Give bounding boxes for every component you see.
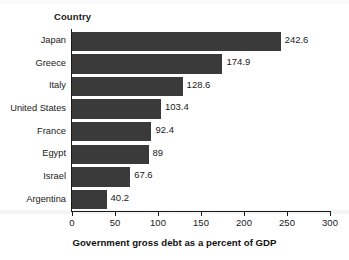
value-axis-tick-mark bbox=[287, 212, 288, 216]
bar bbox=[72, 167, 130, 186]
bar-value-label: 128.6 bbox=[187, 80, 211, 90]
bar-row: Egypt89 bbox=[72, 143, 330, 166]
value-axis-tick-label: 300 bbox=[322, 217, 338, 228]
value-axis-tick-label: 250 bbox=[279, 217, 295, 228]
value-axis-tick-label: 150 bbox=[193, 217, 209, 228]
bar bbox=[72, 32, 281, 51]
scan-artifact-top bbox=[0, 0, 349, 4]
bar-value-label: 89 bbox=[153, 148, 164, 158]
bar-chart-figure: Country Japan242.6Greece174.9Italy128.6U… bbox=[0, 0, 349, 260]
category-label: Italy bbox=[49, 80, 66, 90]
value-axis-tick-mark bbox=[158, 212, 159, 216]
value-axis-tick-label: 200 bbox=[236, 217, 252, 228]
bar bbox=[72, 77, 183, 96]
value-axis-tick-mark bbox=[244, 212, 245, 216]
bar-row: Israel67.6 bbox=[72, 166, 330, 189]
category-label: Egypt bbox=[42, 148, 66, 158]
bar bbox=[72, 99, 161, 118]
category-label: France bbox=[37, 126, 66, 136]
bar-value-label: 67.6 bbox=[134, 170, 153, 180]
value-axis-tick-mark bbox=[201, 212, 202, 216]
bar-row: France92.4 bbox=[72, 121, 330, 144]
category-label: United States bbox=[10, 103, 66, 113]
bar-value-label: 40.2 bbox=[111, 193, 130, 203]
value-axis-tick-label: 0 bbox=[69, 217, 74, 228]
category-axis-title: Country bbox=[54, 11, 91, 22]
bar-value-label: 103.4 bbox=[165, 102, 189, 112]
bar-row: Argentina40.2 bbox=[72, 188, 330, 211]
category-label: Japan bbox=[41, 35, 66, 45]
bar-value-label: 92.4 bbox=[155, 125, 174, 135]
bar-row: Greece174.9 bbox=[72, 53, 330, 76]
bar bbox=[72, 190, 107, 209]
value-axis-tick-label: 50 bbox=[110, 217, 121, 228]
bar bbox=[72, 122, 151, 141]
bar-value-label: 174.9 bbox=[226, 57, 250, 67]
bar bbox=[72, 145, 149, 164]
value-axis-tick-label: 100 bbox=[150, 217, 166, 228]
category-label: Greece bbox=[36, 58, 67, 68]
plot-area: Japan242.6Greece174.9Italy128.6United St… bbox=[72, 30, 330, 211]
value-axis-tick-mark bbox=[115, 212, 116, 216]
bar-row: United States103.4 bbox=[72, 98, 330, 121]
value-axis-tick-mark bbox=[330, 212, 331, 216]
category-label: Israel bbox=[43, 171, 66, 181]
bar-row: Italy128.6 bbox=[72, 75, 330, 98]
bar-row: Japan242.6 bbox=[72, 30, 330, 53]
category-label: Argentina bbox=[26, 194, 66, 204]
value-axis-title: Government gross debt as a percent of GD… bbox=[0, 237, 349, 248]
value-axis-tick-mark bbox=[72, 212, 73, 216]
bar-value-label: 242.6 bbox=[285, 35, 309, 45]
bar bbox=[72, 54, 222, 73]
